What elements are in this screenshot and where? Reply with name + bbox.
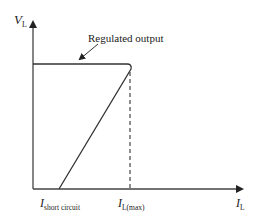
y-axis-label: VL (14, 12, 27, 29)
short-circuit-label: Ishort circuit (39, 196, 81, 212)
foldback-diagram: VL Regulated output Ishort circuit IL(ma… (0, 0, 257, 218)
regulated-output-label: Regulated output (88, 32, 163, 44)
annotation-arrow (80, 44, 98, 59)
x-axis-label: IL (235, 196, 245, 212)
il-max-label: IL(max) (117, 196, 145, 212)
regulated-output-curve (33, 64, 131, 189)
